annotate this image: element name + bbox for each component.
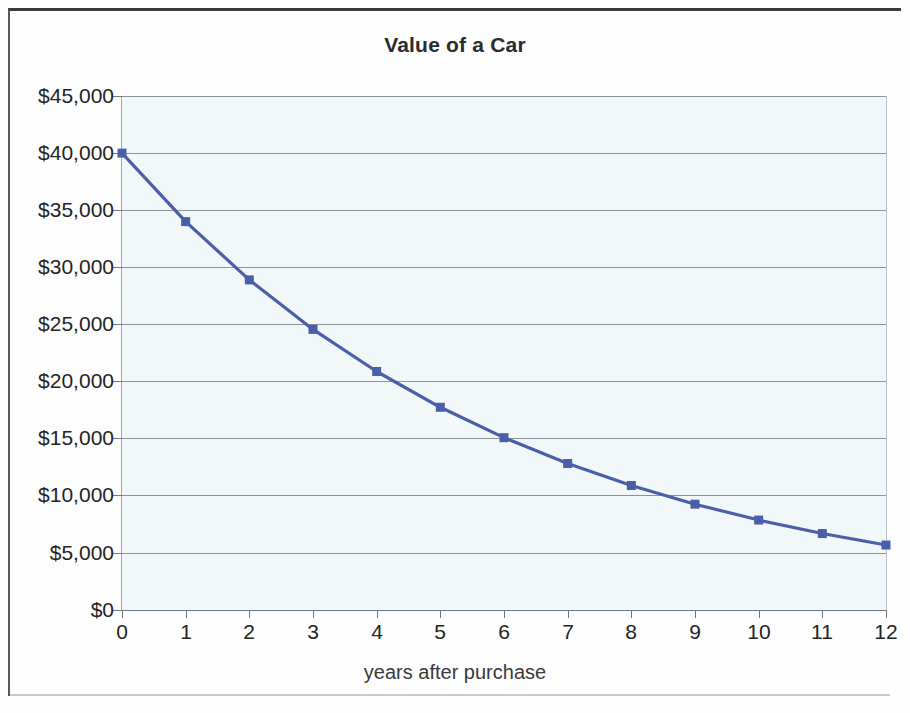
y-tick-label: $35,000: [8, 198, 114, 222]
y-tick-label: $0: [8, 598, 114, 622]
gridline: [122, 438, 886, 439]
y-tick-label: $45,000: [8, 84, 114, 108]
y-tick-label: $20,000: [8, 369, 114, 393]
gridline: [122, 210, 886, 211]
gridline: [122, 381, 886, 382]
x-tick-label: 4: [357, 620, 397, 644]
y-tick-label: $5,000: [8, 541, 114, 565]
y-axis-line: [121, 96, 122, 611]
gridline: [122, 553, 886, 554]
y-tick-label: $40,000: [8, 141, 114, 165]
x-tick-label: 10: [739, 620, 779, 644]
y-tick: [113, 495, 122, 496]
x-tick: [695, 610, 696, 618]
y-tick: [113, 267, 122, 268]
y-tick-label: $30,000: [8, 255, 114, 279]
x-tick-label: 11: [802, 620, 842, 644]
x-tick: [886, 610, 887, 618]
chart-page: Value of a Car $45,000 $40,000 $35,000 $…: [0, 0, 910, 713]
y-tick: [113, 96, 122, 97]
y-tick: [113, 438, 122, 439]
y-tick: [113, 210, 122, 211]
x-tick-label: 6: [484, 620, 524, 644]
x-tick-label: 7: [548, 620, 588, 644]
y-tick: [113, 324, 122, 325]
y-tick: [113, 610, 122, 611]
x-tick: [504, 610, 505, 618]
x-tick-label: 5: [420, 620, 460, 644]
gridline: [122, 153, 886, 154]
y-tick-label: $15,000: [8, 426, 114, 450]
x-tick-label: 3: [293, 620, 333, 644]
x-tick: [186, 610, 187, 618]
y-tick: [113, 553, 122, 554]
x-tick-label: 9: [675, 620, 715, 644]
x-tick: [759, 610, 760, 618]
gridline: [122, 96, 886, 97]
gridline: [122, 267, 886, 268]
x-tick: [377, 610, 378, 618]
gridline: [122, 495, 886, 496]
x-tick-label: 8: [611, 620, 651, 644]
x-tick-label: 12: [866, 620, 906, 644]
x-tick: [822, 610, 823, 618]
chart-title: Value of a Car: [0, 33, 910, 57]
y-tick-label: $25,000: [8, 312, 114, 336]
x-tick-label: 0: [102, 620, 142, 644]
y-tick: [113, 381, 122, 382]
x-tick-label: 1: [166, 620, 206, 644]
x-tick: [122, 610, 123, 618]
gridline: [122, 324, 886, 325]
x-tick: [631, 610, 632, 618]
y-tick: [113, 153, 122, 154]
x-tick: [249, 610, 250, 618]
plot-area: [122, 96, 886, 610]
x-tick: [568, 610, 569, 618]
x-tick: [440, 610, 441, 618]
x-tick: [313, 610, 314, 618]
y-tick-label: $10,000: [8, 483, 114, 507]
x-tick-label: 2: [229, 620, 269, 644]
x-axis-title: years after purchase: [0, 661, 910, 684]
plot-right-border: [886, 96, 887, 611]
page-frame-bottom-edge: [10, 694, 890, 696]
